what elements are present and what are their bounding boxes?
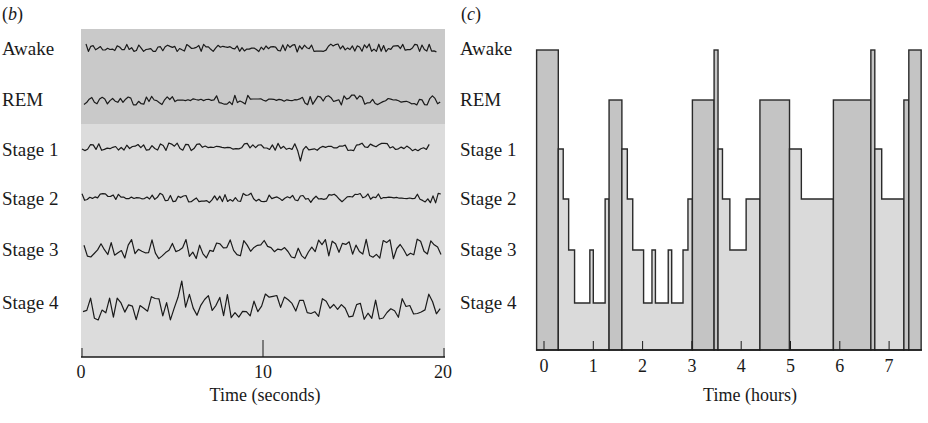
row-label-awake: Awake [460,38,512,59]
awake-rem-band [81,29,445,124]
row-label-rem: REM [460,89,501,110]
panel-c-x-axis: Time (hours) 01234567 [536,341,922,406]
row-label-stage-1: Stage 1 [2,139,58,160]
x-tick-label: 7 [885,356,894,376]
hypnogram-block-rem [609,100,622,350]
x-tick-label: 2 [638,356,647,376]
hypnogram [537,50,922,350]
hypnogram-nrem-cycle [558,149,609,350]
row-label-stage-1: Stage 1 [460,139,516,160]
panel-c-row-labels: Awake REM Stage 1 Stage 2 Stage 3 Stage … [460,38,517,313]
figure: (b) Awake REM Stage 1 Stage 2 Stage 3 St… [0,0,928,423]
hypnogram-block-rem [904,100,909,350]
x-tick-label: 4 [737,356,746,376]
row-label-stage-4: Stage 4 [460,292,517,313]
panel-c: (c) Awake REM Stage 1 Stage 2 Stage 3 St… [460,4,922,406]
panel-b-label: (b) [2,4,23,25]
x-tick-label: 20 [434,362,452,382]
hypnogram-nrem-cycle [622,149,692,350]
hypnogram-block-rem [692,100,714,350]
row-label-stage-2: Stage 2 [460,188,516,209]
panel-c-label: (c) [461,4,481,25]
x-tick-label: 0 [540,356,549,376]
hypnogram-nrem-cycle [790,149,834,350]
x-axis-title: Time (hours) [703,385,797,406]
hypnogram-block-rem [760,100,790,350]
hypnogram-block-rem [833,100,870,350]
hypnogram-nrem-cycle [875,149,904,350]
panel-b-row-labels: Awake REM Stage 1 Stage 2 Stage 3 Stage … [2,38,59,313]
hypnogram-block-awake [909,50,921,350]
hypnogram-block-awake [537,50,559,350]
row-label-stage-3: Stage 3 [2,239,58,260]
row-label-stage-4: Stage 4 [2,292,59,313]
x-axis-title: Time (seconds) [210,385,321,406]
x-tick-label: 10 [254,362,272,382]
panel-b: (b) Awake REM Stage 1 Stage 2 Stage 3 St… [2,4,452,406]
x-tick-label: 1 [589,356,598,376]
x-tick-label: 6 [835,356,844,376]
row-label-stage-3: Stage 3 [460,239,516,260]
x-tick-label: 5 [786,356,795,376]
hypnogram-nrem-cycle [718,149,760,350]
x-tick-label: 0 [77,362,86,382]
row-label-stage-2: Stage 2 [2,188,58,209]
row-label-awake: Awake [2,38,54,59]
row-label-rem: REM [2,89,43,110]
x-tick-label: 3 [687,356,696,376]
